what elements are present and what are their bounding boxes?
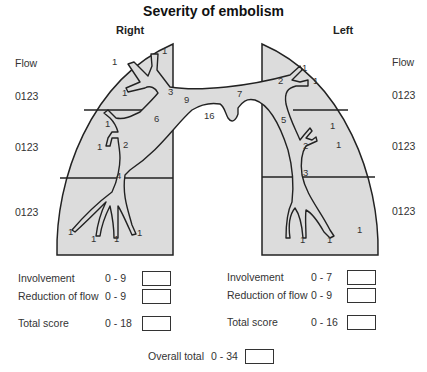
left-reduction-label: Reduction of flow: [227, 289, 308, 301]
right-main-artery: 9: [184, 94, 189, 105]
right-seg-middle-lateral: 1: [105, 118, 110, 129]
left-main-artery: 7: [237, 88, 242, 99]
left-lower-lobe-branch: 3: [303, 167, 308, 178]
left-total-label: Total score: [227, 316, 278, 328]
left-reduction-input[interactable]: [347, 288, 376, 303]
overall-total-input[interactable]: [245, 349, 274, 364]
left-seg-lingula-inferior: 1: [336, 139, 341, 150]
right-seg-lower-3: 1: [114, 233, 119, 244]
right-seg-lower-2: 1: [91, 233, 96, 244]
left-interlobar-artery: 5: [281, 114, 286, 125]
overall-total-label: Overall total: [148, 350, 204, 362]
left-involvement-input[interactable]: [347, 270, 376, 285]
right-interlobar-artery: 6: [154, 113, 159, 124]
left-seg-lingula-superior: 1: [330, 120, 335, 131]
right-seg-anterior: 1: [122, 87, 127, 98]
right-seg-posterior: 1: [162, 45, 167, 56]
right-seg-middle-medial: 1: [97, 141, 102, 152]
right-seg-apical: 1: [112, 56, 117, 67]
left-upper-lobe-branch: 2: [278, 75, 283, 86]
right-upper-lobe-branch: 3: [168, 86, 173, 97]
left-total-input[interactable]: [347, 315, 376, 330]
right-reduction-range: 0 - 9: [105, 290, 126, 302]
right-total-label: Total score: [18, 317, 69, 329]
overall-total-range: 0 - 34: [211, 350, 238, 362]
right-lower-lobe-branch: 4: [116, 170, 121, 181]
main-trunk-label: 16: [204, 110, 215, 121]
left-seg-lower-2: 1: [327, 234, 332, 245]
left-seg-apicoposterior: 1: [302, 62, 307, 73]
right-involvement-range: 0 - 9: [105, 272, 126, 284]
right-reduction-label: Reduction of flow: [18, 290, 99, 302]
right-involvement-input[interactable]: [142, 271, 171, 286]
right-total-range: 0 - 18: [105, 317, 132, 329]
right-middle-lobe-branch: 2: [123, 139, 128, 150]
left-involvement-range: 0 - 7: [311, 271, 332, 283]
left-seg-lower-1: 1: [300, 234, 305, 245]
right-total-input[interactable]: [142, 316, 171, 331]
left-seg-anterior: 1: [313, 75, 318, 86]
left-seg-lower-3: 1: [357, 224, 362, 235]
left-total-range: 0 - 16: [311, 316, 338, 328]
right-involvement-label: Involvement: [18, 272, 75, 284]
left-lingula-branch: 2: [303, 140, 308, 151]
left-involvement-label: Involvement: [227, 271, 284, 283]
left-reduction-range: 0 - 9: [311, 289, 332, 301]
right-seg-lower-4: 1: [137, 227, 142, 238]
right-reduction-input[interactable]: [142, 289, 171, 304]
right-seg-lower-1: 1: [68, 226, 73, 237]
